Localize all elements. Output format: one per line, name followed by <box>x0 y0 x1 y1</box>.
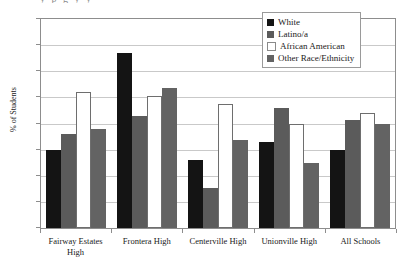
bar <box>345 120 360 228</box>
y-tick-mark <box>36 123 40 124</box>
legend-label: African American <box>280 42 345 51</box>
bar <box>46 150 61 228</box>
x-axis-labels: Fairway EstatesHighFrontera HighCentervi… <box>40 236 396 266</box>
x-tick-mark <box>254 229 255 233</box>
y-tick-mark <box>36 18 40 19</box>
bar <box>360 113 375 228</box>
bar-group <box>183 19 254 228</box>
legend-item: White <box>267 16 354 28</box>
legend-swatch-icon <box>267 42 276 51</box>
bar <box>233 140 248 228</box>
bar <box>188 160 203 228</box>
y-tick-mark <box>36 227 40 228</box>
x-tick-mark <box>182 229 183 233</box>
x-tick-mark <box>396 229 397 233</box>
legend-label: White <box>278 18 300 27</box>
bar <box>289 124 304 229</box>
y-tick-mark <box>36 201 40 202</box>
bar <box>132 116 147 228</box>
x-tick-mark <box>325 229 326 233</box>
x-axis-label: All Schools <box>325 236 396 266</box>
bar <box>218 104 233 228</box>
bar <box>259 142 274 228</box>
legend-item: African American <box>267 40 354 52</box>
x-axis-label: Frontera High <box>111 236 182 266</box>
legend-label: Latino/a <box>278 30 308 39</box>
bar-chart: y p g y y % of Students 0102030405060708… <box>0 0 406 267</box>
legend-item: Latino/a <box>267 28 354 40</box>
x-axis-label: Fairway EstatesHigh <box>40 236 111 266</box>
legend-swatch-icon <box>267 55 274 62</box>
bar <box>61 134 76 228</box>
x-tick-mark <box>111 229 112 233</box>
y-tick-mark <box>36 70 40 71</box>
x-tick-mark <box>40 229 41 233</box>
legend-label: Other Race/Ethnicity <box>278 54 354 63</box>
bar <box>147 96 162 228</box>
bar <box>304 163 319 228</box>
bar-group <box>112 19 183 228</box>
y-tick-mark <box>36 96 40 97</box>
bar-group <box>41 19 112 228</box>
legend: WhiteLatino/aAfrican AmericanOther Race/… <box>262 12 361 68</box>
bar <box>274 108 289 228</box>
legend-swatch-icon <box>267 31 274 38</box>
legend-swatch-icon <box>267 19 274 26</box>
bar <box>117 53 132 228</box>
legend-item: Other Race/Ethnicity <box>267 52 354 64</box>
y-axis-title: % of Students <box>9 65 18 155</box>
bar <box>76 92 91 228</box>
bar <box>203 188 218 228</box>
bar <box>162 88 177 228</box>
y-tick-mark <box>36 44 40 45</box>
bar <box>91 129 106 228</box>
bar <box>330 150 345 228</box>
clipped-title-remnant: y p g y y <box>40 0 380 3</box>
x-axis-label: Centerville High <box>182 236 253 266</box>
x-axis-label: Unionville High <box>254 236 325 266</box>
y-tick-mark <box>36 175 40 176</box>
y-tick-mark <box>36 149 40 150</box>
bar <box>375 124 390 229</box>
